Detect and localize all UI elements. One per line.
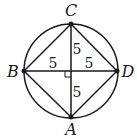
length-label-BO: 5: [49, 55, 58, 71]
length-label-OD: 5: [85, 55, 94, 71]
label-A: A: [63, 120, 77, 139]
label-D: D: [121, 62, 135, 81]
vertex-B-dot: [22, 69, 27, 74]
length-label-OA: 5: [73, 84, 82, 100]
vertex-C-dot: [69, 22, 74, 27]
vertex-A-dot: [69, 115, 74, 120]
geometry-diagram: C B D A 5 5 5 5: [0, 0, 137, 139]
vertex-D-dot: [115, 69, 120, 74]
length-label-OC: 5: [73, 41, 82, 57]
label-B: B: [6, 62, 19, 81]
label-C: C: [65, 1, 77, 20]
segment-BA: [24, 71, 71, 117]
right-angle-marker: [65, 71, 71, 77]
